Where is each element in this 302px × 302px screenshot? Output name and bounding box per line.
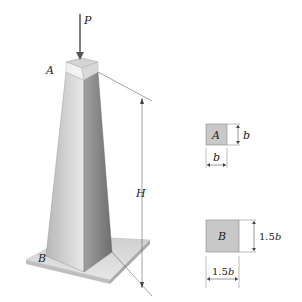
point-b-label: B [37, 252, 46, 265]
section-a-height-label: b [243, 129, 250, 142]
load-label: P [83, 14, 92, 27]
section-b-width-label: 1.5b [212, 266, 234, 277]
load-arrow-p [76, 14, 84, 60]
tapered-column [46, 58, 112, 272]
section-a-width-label: b [213, 151, 220, 164]
section-b [206, 220, 256, 288]
section-b-label: B [217, 230, 226, 243]
point-a-label: A [45, 64, 54, 77]
section-b-height-label: 1.5b [259, 231, 281, 242]
height-label: H [135, 187, 146, 200]
section-a-label: A [211, 129, 220, 142]
tapered-column-diagram: P A B H A b b B 1.5 [0, 0, 302, 302]
